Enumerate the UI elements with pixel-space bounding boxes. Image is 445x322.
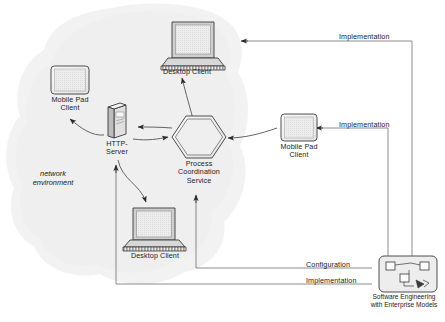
edge-label-configuration: Configuration xyxy=(306,261,350,270)
desktop-client-bottom-label: Desktop Client xyxy=(116,252,194,260)
network-environment-label: network environment xyxy=(16,169,90,187)
http-server-label: HTTP- Server xyxy=(96,140,138,157)
mobile-pad-client-left-label: Mobile Pad Client xyxy=(32,96,108,113)
node-mobile-pad-client-right[interactable] xyxy=(281,114,317,141)
software-engineering-tool-label: Software Engineering with Enterprise Mod… xyxy=(362,293,445,309)
node-software-engineering-tool[interactable] xyxy=(379,256,437,292)
node-mobile-pad-client-left[interactable] xyxy=(51,66,89,94)
process-coordination-service-label: Process Coordination Service xyxy=(165,160,233,185)
model-editor-icon xyxy=(379,256,437,292)
node-http-server[interactable] xyxy=(108,103,126,138)
server-tower-icon xyxy=(108,103,126,138)
tablet-icon xyxy=(281,114,317,141)
mobile-pad-client-right-label: Mobile Pad Client xyxy=(262,143,336,160)
edge-label-implementation-middle: Implementation xyxy=(339,121,390,130)
edge-label-implementation-top: Implementation xyxy=(339,33,390,42)
network-architecture-diagram: Desktop Client Mobile Pad Client HTTP- S… xyxy=(0,0,445,322)
tablet-icon xyxy=(51,66,89,94)
desktop-client-top-label: Desktop Client xyxy=(148,68,226,76)
edge-label-implementation-bottom: Implementation xyxy=(306,277,357,286)
